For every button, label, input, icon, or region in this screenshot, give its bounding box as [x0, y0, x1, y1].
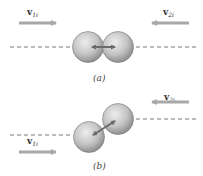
sphere-2-b: [103, 104, 134, 135]
caption-b: (b): [93, 161, 106, 171]
collision-diagram: v1i v2i (a) v2i v1i (b): [0, 0, 203, 176]
v1i-label-b: v1i: [26, 136, 38, 147]
sphere-1-b: [74, 122, 105, 153]
panel-b: v2i v1i (b): [10, 92, 196, 171]
v1i-label-a: v1i: [26, 7, 38, 18]
v2i-label-a: v2i: [162, 7, 174, 18]
panel-a: v1i v2i (a): [10, 7, 196, 83]
caption-a: (a): [93, 73, 106, 83]
